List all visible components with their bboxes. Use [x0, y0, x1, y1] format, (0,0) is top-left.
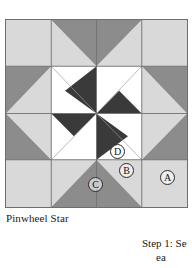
patch-label-a: A [160, 170, 175, 185]
step-instruction-line-2: ea [142, 250, 192, 264]
patch-label-d: D [110, 144, 125, 159]
patch-label-c: C [88, 177, 103, 192]
page-canvas: A B C D Pinwheel Star Step 1: Se ea [0, 0, 192, 268]
block-name-caption: Pinwheel Star [6, 212, 69, 224]
step-instruction-text: Step 1: Se ea [142, 236, 192, 264]
patch-label-b: B [119, 163, 134, 178]
step-instruction-line-1: Step 1: Se [142, 237, 187, 249]
